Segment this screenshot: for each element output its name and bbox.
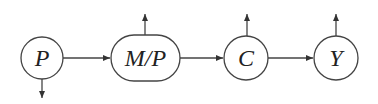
node-y-label: Y [329, 45, 345, 71]
node-p-label: P [34, 45, 50, 71]
flow-diagram: P M/P C Y [0, 0, 378, 104]
node-mp: M/P [111, 35, 180, 81]
node-p: P [21, 37, 63, 79]
node-c: C [224, 36, 268, 80]
node-mp-label: M/P [124, 45, 167, 71]
node-c-label: C [238, 45, 255, 71]
node-y: Y [314, 36, 358, 80]
